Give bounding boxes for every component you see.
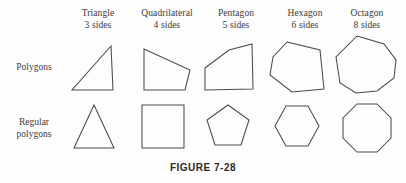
figure-7-28: Triangle 3 sides Quadrilateral 4 sides P… xyxy=(0,0,406,183)
shape-regular-octagon xyxy=(343,104,391,152)
shape-regular-square xyxy=(142,105,184,148)
shape-irregular-hexagon xyxy=(270,42,324,92)
figure-caption: FIGURE 7-28 xyxy=(0,162,406,173)
shape-regular-pentagon xyxy=(207,105,249,145)
row-label-line-1: Polygons xyxy=(3,62,65,74)
shape-irregular-quadrilateral xyxy=(144,49,190,90)
column-header-name: Octagon xyxy=(325,8,406,20)
row-label-regular-polygons: Regular polygons xyxy=(3,117,65,140)
column-header-sides: 8 sides xyxy=(325,20,406,32)
shape-regular-triangle xyxy=(74,105,114,148)
shape-irregular-triangle xyxy=(72,46,113,90)
shape-regular-hexagon xyxy=(275,106,319,146)
column-header-octagon: Octagon 8 sides xyxy=(325,8,406,31)
row-label-line-1: Regular xyxy=(3,117,65,129)
row-label-polygons: Polygons xyxy=(3,62,65,74)
shape-irregular-octagon xyxy=(336,36,396,93)
shape-irregular-pentagon xyxy=(205,44,253,90)
row-label-line-2: polygons xyxy=(3,129,65,141)
